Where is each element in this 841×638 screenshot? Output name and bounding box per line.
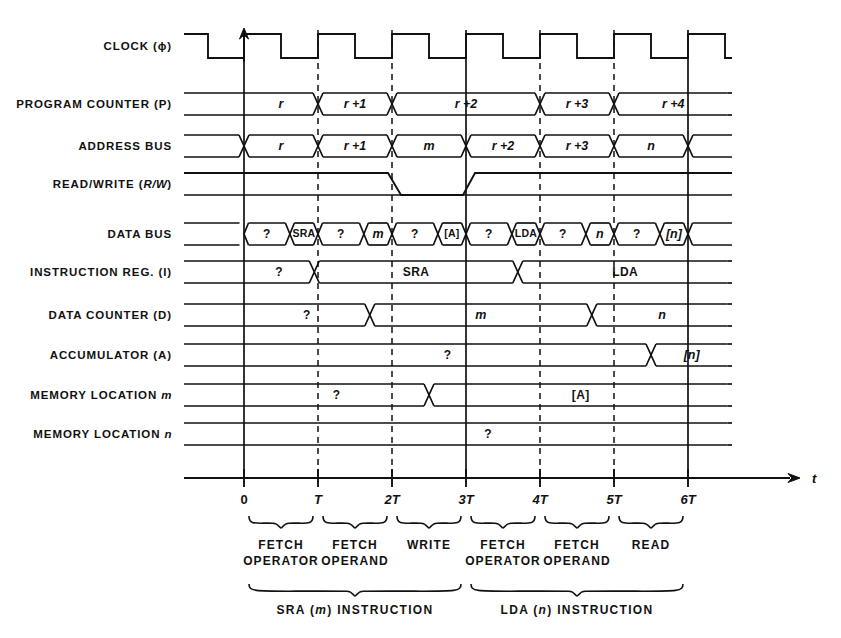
bus-transition [518, 261, 523, 283]
bus-value: n [647, 139, 655, 153]
bus-value: ? [559, 227, 567, 241]
bus-value: r +3 [566, 97, 589, 111]
bus-transition [586, 223, 591, 245]
bus-value: m [372, 227, 383, 241]
bus-value: [A] [444, 227, 459, 239]
bus-transition [651, 344, 656, 366]
read-write-waveform [184, 173, 732, 195]
bus-value: ? [485, 227, 493, 241]
bus-value: r +3 [566, 139, 589, 153]
bus-transition [364, 223, 369, 245]
axis-tick-label: 2T [383, 492, 400, 507]
axis-tick-label: T [314, 492, 323, 507]
axis-tick-label: 5T [606, 492, 622, 507]
bus-transition [370, 304, 375, 326]
bus-value: n [658, 308, 666, 322]
bus-value: r +1 [344, 139, 367, 153]
phase-brace-0 [249, 516, 313, 528]
bus-value: [n] [683, 348, 701, 362]
time-axis-label: t [812, 471, 817, 486]
bus-value: ? [333, 388, 341, 402]
axis-tick-label: 0 [240, 492, 247, 507]
instruction-brace-1 [471, 584, 683, 596]
bus-transition [660, 223, 665, 245]
phase-brace-4 [545, 516, 609, 528]
axis-tick-label: 3T [458, 492, 474, 507]
phase-caption-line1: WRITE [407, 538, 451, 552]
bus-value: [n] [665, 227, 683, 241]
bus-value: SRA [403, 265, 430, 279]
bus-transition [592, 304, 597, 326]
phase-brace-2 [397, 516, 461, 528]
bus-value: ? [484, 427, 492, 441]
axis-tick-label: 4T [531, 492, 548, 507]
phase-caption-line2: OPERATOR [243, 554, 319, 568]
bus-value: r +4 [662, 97, 685, 111]
bus-value: LDA [515, 227, 537, 239]
bus-value: r +1 [344, 97, 367, 111]
bus-value: r [279, 139, 285, 153]
bus-transition [429, 384, 434, 406]
bus-value: [A] [572, 388, 590, 402]
bus-value: ? [444, 348, 452, 362]
timing-diagram-figure: CLOCK (ϕ)PROGRAM COUNTER (P)ADDRESS BUSR… [0, 0, 841, 638]
bus-value: ? [633, 227, 641, 241]
phase-caption-line1: FETCH [480, 538, 526, 552]
phase-caption-line2: OPERAND [543, 554, 611, 568]
bus-value: ? [275, 265, 283, 279]
bus-value: ? [337, 227, 345, 241]
phase-brace-5 [619, 516, 683, 528]
bus-value: ? [303, 308, 311, 322]
phase-caption-line1: READ [632, 538, 670, 552]
timing-waveform-canvas: rr +1r +2r +3r +4rr +1mr +2r +3n?SRA?m?[… [0, 0, 841, 638]
axis-tick-label: 6T [680, 492, 696, 507]
phase-caption-line1: FETCH [554, 538, 600, 552]
instruction-brace-0 [249, 584, 461, 596]
instruction-caption: SRA (m) INSTRUCTION [277, 603, 434, 617]
bus-value: SRA [293, 227, 316, 239]
bus-value: m [475, 308, 486, 322]
bus-value: r +2 [455, 97, 478, 111]
bus-value: r [279, 97, 285, 111]
bus-value: LDA [612, 265, 638, 279]
phase-brace-1 [323, 516, 387, 528]
instruction-caption: LDA (n) INSTRUCTION [501, 603, 654, 617]
bus-value: ? [411, 227, 419, 241]
phase-caption-line2: OPERAND [321, 554, 389, 568]
phase-caption-line2: OPERATOR [465, 554, 541, 568]
bus-value: ? [263, 227, 271, 241]
bus-transition [438, 223, 443, 245]
clock-waveform [184, 34, 732, 58]
bus-value: n [596, 227, 604, 241]
bus-value: r +2 [492, 139, 515, 153]
phase-caption-line1: FETCH [258, 538, 304, 552]
phase-brace-3 [471, 516, 535, 528]
phase-caption-line1: FETCH [332, 538, 378, 552]
bus-value: m [423, 139, 434, 153]
